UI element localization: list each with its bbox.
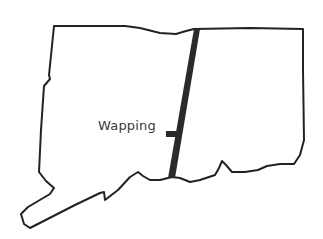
wapping-marker	[166, 131, 176, 137]
place-label-wapping: Wapping	[98, 118, 156, 133]
state-map	[0, 0, 323, 239]
state-outline	[21, 26, 304, 228]
